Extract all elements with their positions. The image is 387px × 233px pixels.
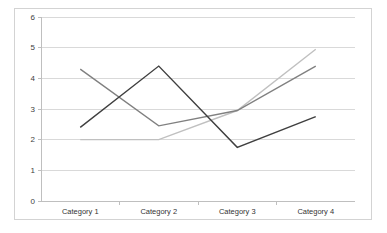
y-tick-label: 3	[31, 105, 36, 114]
axes	[38, 17, 355, 205]
line-chart: 0123456 Category 1Category 2Category 3Ca…	[0, 0, 387, 233]
x-tick-label: Category 2	[140, 207, 177, 216]
y-tick-label: 0	[31, 197, 36, 206]
y-tick-label: 6	[31, 13, 36, 22]
data-series	[80, 49, 316, 147]
x-axis-tick-labels: Category 1Category 2Category 3Category 4	[62, 207, 334, 216]
y-tick-label: 4	[31, 74, 36, 83]
y-axis-tick-labels: 0123456	[31, 13, 36, 206]
y-tick-label: 1	[31, 166, 36, 175]
y-tick-label: 2	[31, 135, 36, 144]
x-tick-label: Category 3	[219, 207, 256, 216]
gridlines	[41, 17, 355, 170]
x-tick-label: Category 1	[62, 207, 99, 216]
y-tick-label: 5	[31, 43, 36, 52]
x-tick-label: Category 4	[297, 207, 334, 216]
series-line-2	[80, 66, 316, 126]
